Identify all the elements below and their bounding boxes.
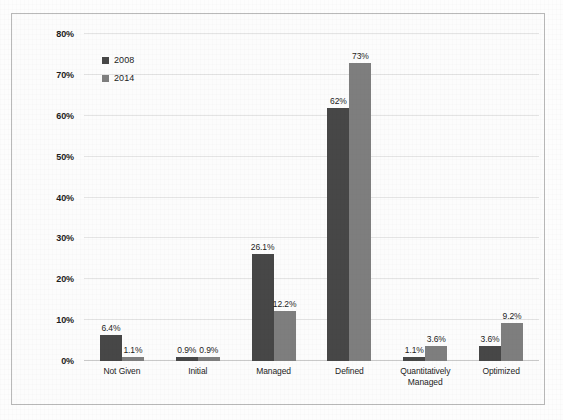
bar-value-label: 6.4%	[101, 323, 120, 333]
bar-value-label: 9.2%	[503, 311, 522, 321]
y-tick-label: 60%	[56, 111, 74, 121]
chart-frame: 0%10%20%30%40%50%60%70%80% 6.4%1.1%0.9%0…	[11, 13, 545, 405]
y-tick-label: 10%	[56, 315, 74, 325]
legend-label: 2014	[114, 74, 134, 83]
bar-2014-initial[interactable]	[198, 357, 220, 361]
y-tick-label: 50%	[56, 152, 74, 162]
legend-item-2008[interactable]: 2008	[102, 56, 134, 65]
bar-2008-managed[interactable]	[252, 254, 274, 361]
bar-2008-quantitatively-managed[interactable]	[403, 357, 425, 361]
legend-swatch-icon	[102, 75, 109, 82]
bar-value-label: 62%	[330, 96, 347, 106]
bar-value-label: 1.1%	[405, 345, 424, 355]
bar-2014-optimized[interactable]	[501, 323, 523, 361]
x-axis-label: Managed	[256, 366, 291, 377]
bar-2014-quantitatively-managed[interactable]	[425, 346, 447, 361]
x-axis-label: Optimized	[482, 366, 519, 377]
x-axis-label: Not Given	[103, 366, 140, 377]
bar-group: 62%73%	[327, 34, 371, 361]
y-tick-label: 0%	[61, 356, 74, 366]
y-tick-label: 30%	[56, 233, 74, 243]
legend-swatch-icon	[102, 57, 109, 64]
bar-2008-not-given[interactable]	[100, 335, 122, 361]
bar-2008-initial[interactable]	[176, 357, 198, 361]
bar-2008-defined[interactable]	[327, 108, 349, 361]
bar-group: 1.1%3.6%	[403, 34, 447, 361]
bar-group: 26.1%12.2%	[252, 34, 296, 361]
legend-item-2014[interactable]: 2014	[102, 74, 134, 83]
plot-area: 0%10%20%30%40%50%60%70%80% 6.4%1.1%0.9%0…	[84, 34, 539, 361]
bar-value-label: 26.1%	[251, 242, 275, 252]
bar-2014-managed[interactable]	[274, 311, 296, 361]
x-axis-label: Quantitatively Managed	[400, 366, 450, 388]
bar-group: 0.9%0.9%	[176, 34, 220, 361]
bar-value-label: 0.9%	[199, 345, 218, 355]
chart-legend: 20082014	[102, 56, 134, 92]
bar-2014-not-given[interactable]	[122, 357, 144, 361]
bar-value-label: 12.2%	[273, 299, 297, 309]
y-tick-label: 20%	[56, 274, 74, 284]
bar-value-label: 3.6%	[427, 334, 446, 344]
x-axis-label: Defined	[335, 366, 364, 377]
bar-value-label: 3.6%	[481, 334, 500, 344]
bar-layer: 6.4%1.1%0.9%0.9%26.1%12.2%62%73%1.1%3.6%…	[84, 34, 539, 361]
y-tick-label: 40%	[56, 193, 74, 203]
legend-label: 2008	[114, 56, 134, 65]
bar-value-label: 73%	[352, 51, 369, 61]
bar-value-label: 1.1%	[123, 345, 142, 355]
y-tick-label: 70%	[56, 70, 74, 80]
x-axis-label: Initial	[188, 366, 207, 377]
bar-group: 3.6%9.2%	[479, 34, 523, 361]
x-axis-category-labels: Not GivenInitialManagedDefinedQuantitati…	[84, 366, 539, 406]
bar-2008-optimized[interactable]	[479, 346, 501, 361]
scanned-page-canvas: 0%10%20%30%40%50%60%70%80% 6.4%1.1%0.9%0…	[0, 0, 563, 420]
bar-value-label: 0.9%	[177, 345, 196, 355]
y-tick-label: 80%	[56, 29, 74, 39]
bar-2014-defined[interactable]	[349, 63, 371, 361]
